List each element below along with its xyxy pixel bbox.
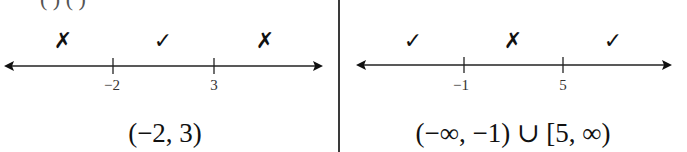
tick-label: −1 bbox=[453, 78, 469, 93]
cross-mark-icon: ✗ bbox=[256, 30, 274, 52]
left-number-line-panel: ( ) ( ) ✗ ✓ ✗ −2 3 (−2, 3) bbox=[0, 0, 339, 152]
cross-mark-icon: ✗ bbox=[54, 30, 72, 52]
tick-label: −2 bbox=[104, 78, 120, 93]
solution-interval: (−2, 3) bbox=[128, 120, 202, 147]
tick-label: 3 bbox=[210, 78, 218, 93]
check-mark-icon: ✓ bbox=[604, 30, 622, 52]
check-mark-icon: ✓ bbox=[154, 30, 172, 52]
check-mark-icon: ✓ bbox=[404, 30, 422, 52]
solution-interval: (−∞, −1) ∪ [5, ∞) bbox=[415, 120, 610, 147]
right-number-line-panel: ✓ ✗ ✓ −1 5 (−∞, −1) ∪ [5, ∞) bbox=[340, 0, 687, 152]
tick-label: 5 bbox=[559, 78, 567, 93]
cross-mark-icon: ✗ bbox=[504, 30, 522, 52]
